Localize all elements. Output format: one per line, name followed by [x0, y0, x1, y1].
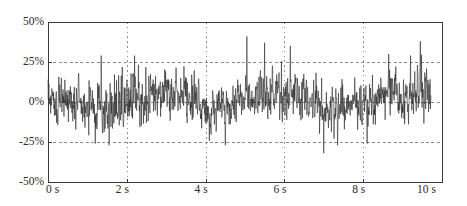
signal-trace	[48, 36, 431, 153]
x-tick-label-8s: 8 s	[352, 183, 365, 195]
y-tick-label-0: 0%	[29, 95, 44, 107]
noise-plot	[0, 0, 467, 206]
y-tick-label-neg25: -25%	[19, 135, 44, 147]
x-tick-label-6s: 6 s	[273, 183, 286, 195]
x-tick-label-10s: 10 s	[417, 183, 436, 195]
x-tick-label-2s: 2 s	[116, 183, 129, 195]
chart-figure: 50%25%0%-25%-50% 0 s2 s4 s6 s8 s10 s	[0, 0, 467, 206]
y-tick-label-neg50: -50%	[19, 175, 44, 187]
y-tick-label-50: 50%	[23, 15, 44, 27]
x-tick-label-0s: 0 s	[46, 183, 59, 195]
y-tick-label-25: 25%	[23, 55, 44, 67]
x-tick-label-4s: 4 s	[195, 183, 208, 195]
